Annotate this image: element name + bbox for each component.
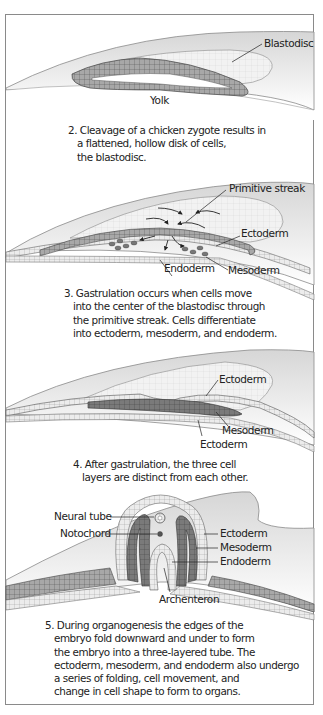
- label-mesoderm: Mesoderm: [228, 264, 280, 276]
- label-ectoderm: Ectoderm: [241, 227, 288, 239]
- label-ectoderm-top: Ectoderm: [219, 373, 266, 385]
- panel-cleavage: Blastodisc Yolk: [6, 32, 314, 121]
- caption-cleavage: 2. Cleavage of a chicken zygote results …: [68, 124, 266, 164]
- label-notochord: Notochord: [60, 527, 111, 539]
- panel-organogenesis: Neural tube Notochord Ectoderm Mesoderm …: [6, 492, 314, 620]
- caption-after-gastrulation: 4. After gastrulation, the three cell la…: [73, 458, 248, 485]
- label-endoderm: Endoderm: [164, 262, 215, 274]
- embryo-development-diagram: Blastodisc Yolk Primitive streak Ectoder…: [0, 0, 323, 715]
- caption-gastrulation: 3. Gastrulation occurs when cells move i…: [64, 287, 277, 340]
- label-blastodisc: Blastodisc: [264, 37, 314, 49]
- panel-after-gastrulation: Ectoderm Mesoderm Ectoderm: [6, 350, 314, 452]
- caption-organogenesis: 5. During organogenesis the edges of the…: [45, 619, 299, 699]
- label-mesoderm: Mesoderm: [220, 541, 272, 553]
- panel-gastrulation: Primitive streak Ectoderm Endoderm Mesod…: [6, 182, 314, 300]
- label-ectoderm-bottom: Ectoderm: [200, 438, 247, 450]
- label-endoderm: Endoderm: [220, 555, 271, 567]
- label-ectoderm: Ectoderm: [220, 527, 267, 539]
- label-neural-tube: Neural tube: [54, 510, 111, 522]
- label-yolk: Yolk: [149, 94, 170, 106]
- notochord-shape: [158, 532, 163, 537]
- label-archenteron: Archenteron: [159, 593, 219, 605]
- label-primitive-streak: Primitive streak: [229, 182, 306, 194]
- label-mesoderm: Mesoderm: [222, 424, 274, 436]
